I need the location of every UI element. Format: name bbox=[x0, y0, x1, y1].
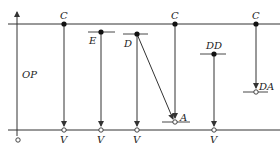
label-c1: C bbox=[60, 10, 68, 21]
start-dot-icon bbox=[98, 29, 103, 34]
end-circle-icon bbox=[212, 128, 216, 132]
label-v1: V bbox=[60, 134, 69, 145]
label-v4: V bbox=[210, 134, 219, 145]
start-dot-icon bbox=[211, 51, 216, 56]
column-c1 bbox=[61, 21, 66, 132]
label-v2: V bbox=[97, 134, 106, 145]
end-circle-icon bbox=[135, 128, 139, 132]
end-circle-icon bbox=[254, 90, 258, 94]
op-axis bbox=[16, 12, 20, 142]
label-c2: C bbox=[171, 10, 179, 21]
start-dot-icon bbox=[134, 31, 139, 36]
axis-label-op: OP bbox=[22, 69, 37, 80]
label-c3: C bbox=[252, 10, 260, 21]
end-circle-icon bbox=[173, 120, 177, 124]
end-circle-icon bbox=[62, 128, 66, 132]
start-dot-icon bbox=[61, 21, 66, 26]
label-dd: DD bbox=[205, 40, 222, 51]
label-a: A bbox=[179, 112, 187, 123]
label-d: D bbox=[123, 38, 132, 49]
label-v3: V bbox=[133, 134, 142, 145]
start-dot-icon bbox=[172, 21, 177, 26]
valve-diagram: OP C V E V D V C A DD bbox=[0, 0, 280, 149]
start-dot-icon bbox=[253, 21, 258, 26]
column-dd bbox=[200, 51, 226, 132]
label-e: E bbox=[88, 35, 97, 46]
column-c2 bbox=[162, 21, 190, 124]
end-circle-icon bbox=[99, 128, 103, 132]
diagonal-d-to-a bbox=[137, 34, 173, 119]
origin-circle-icon bbox=[16, 138, 20, 142]
label-da: DA bbox=[258, 81, 274, 92]
